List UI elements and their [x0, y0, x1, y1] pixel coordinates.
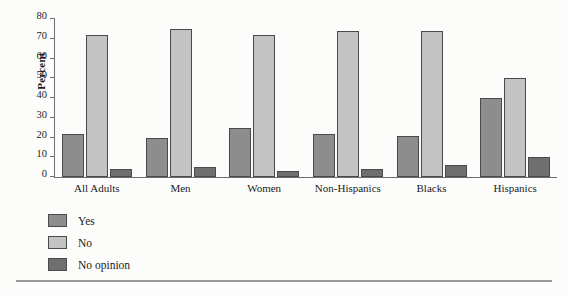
chart-legend: YesNoNo opinion — [48, 211, 130, 277]
footer-divider — [16, 280, 552, 282]
bar-group — [478, 19, 552, 177]
bar-group-bars — [311, 19, 385, 177]
x-axis-label: Men — [139, 182, 223, 194]
bar-no — [253, 35, 275, 177]
y-tick-mark — [50, 38, 55, 39]
legend-item[interactable]: Yes — [48, 211, 130, 230]
bar-yes — [480, 98, 502, 177]
bar-yes — [397, 136, 419, 177]
y-tick-mark — [50, 156, 55, 157]
y-tick-label: 10 — [37, 148, 48, 159]
bar-group-bars — [60, 19, 134, 177]
legend-item[interactable]: No opinion — [48, 255, 130, 274]
legend-label: No opinion — [78, 259, 130, 271]
y-tick-label: 20 — [37, 129, 48, 140]
y-tick-label: 30 — [37, 109, 48, 120]
bar-yes — [229, 128, 251, 177]
y-tick-mark — [50, 117, 55, 118]
bar-group — [60, 19, 134, 177]
bar-no-opinion — [194, 167, 216, 177]
y-tick-label: 60 — [37, 50, 48, 61]
bar-group — [144, 19, 218, 177]
x-axis-label: Blacks — [390, 182, 474, 194]
y-tick-label: 0 — [42, 168, 47, 179]
bar-no-opinion — [110, 169, 132, 177]
bar-group — [395, 19, 469, 177]
x-axis-label: All Adults — [55, 182, 139, 194]
y-tick-mark — [50, 176, 55, 177]
x-axis-line — [54, 177, 557, 178]
bar-no-opinion — [528, 157, 550, 177]
legend-label: No — [78, 237, 92, 249]
bar-no — [421, 31, 443, 177]
y-tick-mark — [50, 97, 55, 98]
y-tick-label: 80 — [37, 10, 48, 21]
y-tick-label: 70 — [37, 30, 48, 41]
y-tick-label: 40 — [37, 89, 48, 100]
x-axis-label: Non-Hispanics — [306, 182, 390, 194]
bar-no — [504, 78, 526, 177]
bar-no-opinion — [277, 171, 299, 177]
legend-item[interactable]: No — [48, 233, 130, 252]
y-tick-mark — [50, 18, 55, 19]
bar-group-bars — [395, 19, 469, 177]
bar-group-bars — [227, 19, 301, 177]
bar-group — [227, 19, 301, 177]
bar-group — [311, 19, 385, 177]
bar-yes — [62, 134, 84, 177]
y-tick-mark — [50, 77, 55, 78]
chart-figure: Percent 01020304050607080 All AdultsMenW… — [0, 0, 568, 295]
bar-no — [170, 29, 192, 177]
bar-no-opinion — [445, 165, 467, 177]
legend-swatch-icon — [48, 258, 67, 271]
y-tick-label: 50 — [37, 69, 48, 80]
y-tick-mark — [50, 137, 55, 138]
bar-no — [337, 31, 359, 177]
bar-no — [86, 35, 108, 177]
plot-area: 01020304050607080 — [55, 19, 557, 177]
bar-no-opinion — [361, 169, 383, 177]
legend-label: Yes — [78, 215, 95, 227]
x-axis-label: Women — [222, 182, 306, 194]
x-axis-label: Hispanics — [473, 182, 557, 194]
bar-yes — [146, 138, 168, 178]
bar-yes — [313, 134, 335, 177]
bar-group-bars — [478, 19, 552, 177]
legend-swatch-icon — [48, 214, 67, 227]
y-tick-mark — [50, 58, 55, 59]
bar-group-bars — [144, 19, 218, 177]
legend-swatch-icon — [48, 236, 67, 249]
